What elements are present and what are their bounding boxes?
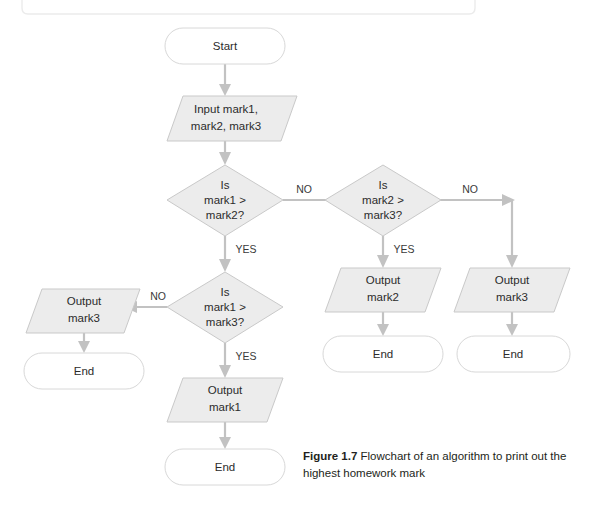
connectors: [78, 64, 518, 449]
node-decision-mark2-gt-mark3: Is mark2 > mark3?: [325, 165, 441, 236]
flowchart-canvas: Start Input mark1, mark2, mark3 Is mark1…: [0, 0, 597, 510]
node-end-bottom: End: [165, 449, 285, 485]
node-end-right-label: End: [503, 348, 523, 360]
page-content-box: [22, 0, 475, 14]
node-decision-mark1-gt-mark2: Is mark1 > mark2?: [167, 165, 283, 236]
node-decision3-line1: Is: [221, 286, 230, 298]
node-end-right: End: [457, 336, 570, 372]
connector-decision2-yes-to-output2: [377, 236, 389, 268]
node-end-left: End: [24, 353, 144, 389]
edge-label-no-decision3: NO: [150, 290, 166, 302]
connector-output1-to-endbottom: [219, 422, 231, 449]
node-end-bottom-label: End: [215, 461, 235, 473]
connector-input-to-decision1: [219, 141, 231, 165]
connector-start-to-input: [219, 64, 231, 96]
flowchart-figure: Start Input mark1, mark2, mark3 Is mark1…: [0, 0, 597, 510]
edge-label-yes-decision1: YES: [235, 243, 256, 255]
node-decision2-line2: mark2 >: [362, 194, 404, 206]
node-output3right-line1: Output: [495, 274, 530, 286]
node-output-mark3-right: Output mark3: [454, 268, 570, 312]
node-output2-line2: mark2: [367, 291, 399, 303]
node-decision-mark1-gt-mark3: Is mark1 > mark3?: [167, 272, 283, 343]
edge-label-yes-decision2: YES: [393, 243, 414, 255]
node-decision3-line3: mark3?: [206, 316, 244, 328]
node-decision2-line1: Is: [379, 179, 388, 191]
node-output-mark2: Output mark2: [325, 268, 441, 312]
connector-decision3-yes-to-output1: [219, 343, 231, 378]
connector-decision1-yes-to-decision3: [219, 236, 231, 272]
node-input-line2: mark2, mark3: [191, 120, 261, 132]
node-decision2-line3: mark3?: [364, 209, 402, 221]
node-output1-line2: mark1: [209, 401, 241, 413]
node-decision3-line2: mark1 >: [204, 301, 246, 313]
edge-label-no-decision2: NO: [462, 183, 478, 195]
node-end-middle: End: [323, 336, 443, 372]
figure-number: Figure 1.7: [303, 450, 357, 462]
node-decision1-line1: Is: [221, 179, 230, 191]
connector-output3left-to-endleft: [78, 333, 90, 353]
figure-caption: Figure 1.7 Flowchart of an algorithm to …: [303, 448, 583, 481]
node-start: Start: [165, 28, 285, 64]
node-end-left-label: End: [74, 365, 94, 377]
node-output1-line1: Output: [208, 384, 243, 396]
node-output-mark3-left: Output mark3: [26, 289, 140, 333]
connector-output3right-to-endright: [506, 312, 518, 336]
node-input: Input mark1, mark2, mark3: [167, 96, 297, 141]
edge-label-no-decision1: NO: [296, 183, 312, 195]
connector-output2-to-endmid: [377, 312, 389, 336]
node-output3left-line1: Output: [67, 295, 102, 307]
node-output3right-line2: mark3: [496, 291, 528, 303]
node-decision1-line3: mark2?: [206, 209, 244, 221]
node-start-label: Start: [213, 40, 238, 52]
node-output2-line1: Output: [366, 274, 401, 286]
edge-label-yes-decision3: YES: [235, 350, 256, 362]
connector-decision2-no-to-output3-right: [423, 194, 518, 268]
node-decision1-line2: mark1 >: [204, 194, 246, 206]
node-output-mark1: Output mark1: [167, 378, 283, 422]
node-input-line1: Input mark1,: [194, 103, 258, 115]
node-output3left-line2: mark3: [68, 312, 100, 324]
node-end-middle-label: End: [373, 348, 393, 360]
